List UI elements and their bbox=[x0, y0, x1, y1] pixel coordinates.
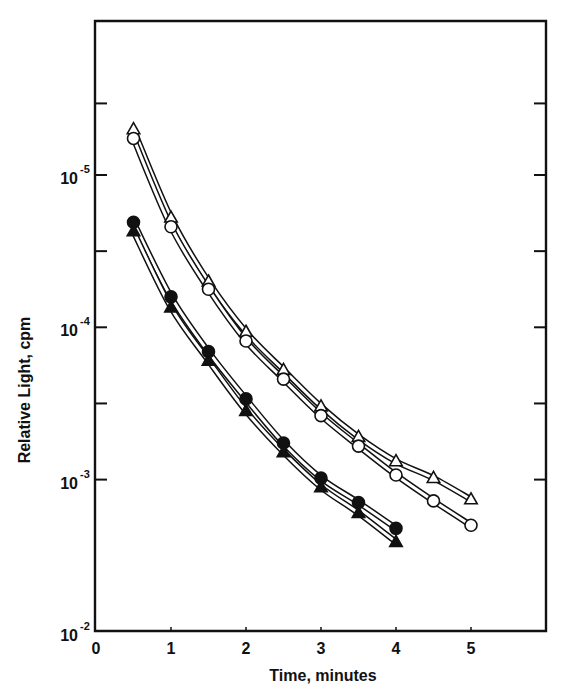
x-tick-label: 1 bbox=[167, 640, 176, 657]
open-circle-marker bbox=[278, 373, 290, 385]
open-circle-marker bbox=[390, 469, 402, 481]
y-tick-exponent: -5 bbox=[80, 163, 90, 175]
open-circle-marker bbox=[353, 440, 365, 452]
open-circle-marker bbox=[428, 495, 440, 507]
open-circle-marker bbox=[128, 132, 140, 144]
background bbox=[0, 0, 564, 696]
filled-circle-marker bbox=[390, 522, 402, 534]
y-axis-title: Relative Light, cpm bbox=[16, 317, 33, 464]
y-tick-exponent: -2 bbox=[80, 620, 90, 632]
open-circle-marker bbox=[315, 410, 327, 422]
y-tick-base: 10 bbox=[60, 627, 78, 644]
x-tick-label: 0 bbox=[92, 640, 101, 657]
y-tick-base: 10 bbox=[60, 475, 78, 492]
decay-chart: 10-510-410-310-2 012345 Time, minutes Re… bbox=[0, 0, 564, 696]
open-circle-marker bbox=[165, 221, 177, 233]
open-circle-marker bbox=[465, 519, 477, 531]
x-axis-title: Time, minutes bbox=[269, 667, 376, 684]
x-tick-label: 4 bbox=[392, 640, 401, 657]
x-tick-label: 5 bbox=[467, 640, 476, 657]
open-circle-marker bbox=[240, 335, 252, 347]
y-tick-base: 10 bbox=[60, 322, 78, 339]
y-tick-base: 10 bbox=[60, 170, 78, 187]
x-tick-label: 3 bbox=[317, 640, 326, 657]
y-tick-exponent: -4 bbox=[80, 315, 91, 327]
y-tick-exponent: -3 bbox=[80, 468, 90, 480]
x-tick-label: 2 bbox=[242, 640, 251, 657]
open-circle-marker bbox=[203, 283, 215, 295]
